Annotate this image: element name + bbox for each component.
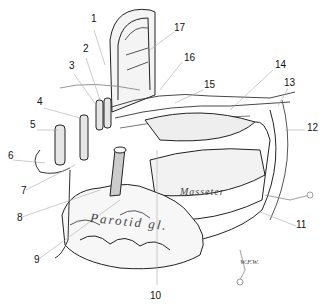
label-10: 10 [150,291,161,301]
label-12: 12 [307,123,318,133]
vessel-stubs [55,98,126,196]
label-5: 5 [30,120,36,130]
label-7: 7 [21,186,27,196]
label-13: 13 [284,78,295,88]
label-1: 1 [91,14,97,24]
label-6: 6 [8,151,14,161]
label-2: 2 [83,44,89,54]
label-15: 15 [204,80,215,90]
label-3: 3 [69,61,75,71]
masseter-text: Masseter [180,186,225,197]
signature-text: W.F.W. [240,258,259,266]
anatomy-drawing [0,0,327,308]
label-14: 14 [275,60,286,70]
label-4: 4 [37,97,43,107]
label-9: 9 [34,255,40,265]
label-16: 16 [184,53,195,63]
label-17: 17 [174,23,185,33]
anatomy-illustration: Parotid gl. Masseter W.F.W. 1 2 3 4 5 6 … [0,0,327,308]
auricle-drawing [110,9,155,112]
label-11: 11 [296,220,306,230]
label-8: 8 [17,213,23,223]
